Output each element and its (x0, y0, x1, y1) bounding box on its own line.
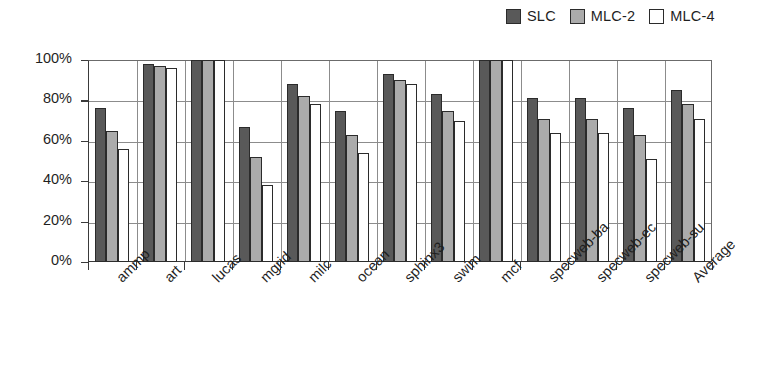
x-axis-tick-mark (184, 262, 185, 270)
y-axis-tick-label: 60% (0, 131, 72, 147)
bar-mlc-2-mcf (490, 60, 501, 262)
x-axis-tick-mark (88, 262, 89, 270)
bar-mlc-2-sphinx3 (394, 80, 405, 262)
bar-mlc-4-lucas (214, 60, 225, 262)
dark-gray-swatch (506, 9, 521, 24)
bar-group-mgrid (232, 60, 280, 262)
legend-label: MLC-4 (670, 8, 715, 24)
bar-mlc-2-specweb-ba (538, 119, 549, 262)
y-axis-tick-label: 100% (0, 50, 72, 66)
bar-slc-sphinx3 (383, 74, 394, 262)
bar-mlc-2-art (154, 66, 165, 262)
y-axis-tick-label: 40% (0, 171, 72, 187)
bar-slc-mcf (479, 60, 490, 262)
bar-slc-art (143, 64, 154, 262)
bar-mlc-4-ocean (358, 153, 369, 262)
y-axis-tick-mark (81, 262, 88, 263)
bar-mlc-4-milc (310, 104, 321, 262)
bar-group-milc (280, 60, 328, 262)
medium-gray-swatch (570, 9, 585, 24)
bar-mlc-2-milc (298, 96, 309, 262)
bar-slc-lucas (191, 60, 202, 262)
legend-entry-mlc-2[interactable]: MLC-2 (570, 8, 636, 24)
bar-mlc-4-mcf (502, 60, 513, 262)
chart-legend: SLCMLC-2MLC-4 (506, 8, 715, 24)
bar-slc-milc (287, 84, 298, 262)
bar-mlc-4-specweb-su (646, 159, 657, 262)
y-axis-tick-mark (81, 222, 88, 223)
legend-entry-slc[interactable]: SLC (506, 8, 556, 24)
bar-mlc-4-specweb-ba (550, 133, 561, 262)
y-axis-tick-mark (81, 60, 88, 61)
bar-mlc-4-specweb-ec (598, 133, 609, 262)
y-axis-tick-mark (81, 181, 88, 182)
bar-slc-ammp (95, 108, 106, 262)
bar-mlc-2-lucas (202, 60, 213, 262)
bar-mlc-2-ammp (106, 131, 117, 262)
y-axis-tick-label: 80% (0, 90, 72, 106)
bar-group-art (136, 60, 184, 262)
bar-mlc-4-art (166, 68, 177, 262)
legend-label: SLC (527, 8, 556, 24)
y-axis-tick-mark (81, 141, 88, 142)
x-axis-label-art: art (161, 262, 184, 285)
bar-mlc-2-mgrid (250, 157, 261, 262)
bar-mlc-2-ocean (346, 135, 357, 262)
y-axis-tick-label: 20% (0, 212, 72, 228)
y-axis-tick-mark (81, 100, 88, 101)
bar-group-lucas (184, 60, 232, 262)
bars-layer (88, 60, 712, 262)
legend-entry-mlc-4[interactable]: MLC-4 (649, 8, 715, 24)
bar-group-sphinx3 (376, 60, 424, 262)
bar-mlc-4-ammp (118, 149, 129, 262)
bar-slc-ocean (335, 111, 346, 263)
bar-group-ocean (328, 60, 376, 262)
bar-group-mcf (472, 60, 520, 262)
white-swatch (649, 9, 664, 24)
bar-mlc-4-mgrid (262, 185, 273, 262)
bar-group-specweb-ba (520, 60, 568, 262)
bar-slc-mgrid (239, 127, 250, 262)
bar-group-ammp (88, 60, 136, 262)
bar-group-swim (424, 60, 472, 262)
legend-label: MLC-2 (591, 8, 636, 24)
bar-slc-swim (431, 94, 442, 262)
bar-chart: SLCMLC-2MLC-4 100%80%60%40%20%0% ammpart… (0, 0, 764, 367)
bar-mlc-2-swim (442, 111, 453, 263)
bar-slc-specweb-ba (527, 98, 538, 262)
y-axis-tick-label: 0% (0, 252, 72, 268)
bar-mlc-4-swim (454, 121, 465, 262)
bar-mlc-4-sphinx3 (406, 84, 417, 262)
